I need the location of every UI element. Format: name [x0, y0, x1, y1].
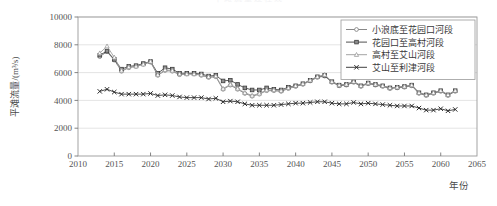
square-filled-marker — [221, 79, 225, 83]
square-filled-marker — [243, 86, 247, 90]
y-axis-ticks: 0200040006000800010000 — [50, 12, 79, 161]
circle-open-marker — [355, 28, 359, 32]
x-tick-label: 2030 — [214, 159, 233, 169]
triangle-open-marker — [236, 86, 240, 90]
y-tick-label: 10000 — [50, 12, 73, 22]
y-axis-title: 平滩流量/(m³/s) — [9, 56, 20, 116]
square-filled-marker — [355, 40, 359, 44]
x-tick-label: 2050 — [359, 159, 378, 169]
x-tick-label: 2010 — [69, 159, 88, 169]
y-tick-label: 6000 — [54, 68, 73, 78]
x-tick-label: 2060 — [432, 159, 451, 169]
square-filled-marker — [250, 88, 254, 92]
x-tick-label: 2020 — [142, 159, 161, 169]
x-tick-label: 2025 — [178, 159, 197, 169]
legend-label: 高村至艾山河段 — [372, 49, 435, 60]
line-chart: 0200040006000800010000 20102015202020252… — [0, 0, 497, 206]
chart-legend: 小浪底至花园口河段花园口至高村河段高村至艾山河段艾山至利津河段 — [341, 20, 475, 79]
y-tick-label: 4000 — [54, 96, 73, 106]
x-axis-title: 年份 — [449, 180, 469, 191]
y-tick-label: 8000 — [54, 40, 73, 50]
x-tick-label: 2055 — [395, 159, 414, 169]
chart-figure: 平滩流量过程线 0200040006000800010000 201020152… — [0, 0, 497, 206]
x-tick-label: 2015 — [105, 159, 124, 169]
triangle-open-marker — [250, 93, 254, 97]
triangle-open-marker — [243, 91, 247, 95]
x-axis-ticks: 2010201520202025203020352040204520502055… — [69, 153, 487, 170]
cross-marker — [98, 89, 102, 93]
y-tick-label: 2000 — [54, 123, 73, 133]
square-filled-marker — [105, 49, 109, 53]
legend-label: 小浪底至花园口河段 — [372, 24, 453, 35]
legend-label: 花园口至高村河段 — [372, 37, 444, 48]
x-tick-label: 2035 — [250, 159, 269, 169]
x-tick-label: 2040 — [287, 159, 306, 169]
x-tick-label: 2065 — [468, 159, 487, 169]
triangle-open-marker — [323, 72, 327, 76]
x-tick-label: 2045 — [323, 159, 342, 169]
legend-label: 艾山至利津河段 — [372, 62, 435, 73]
triangle-open-marker — [228, 82, 232, 86]
caption-remnant-text: 平滩流量过程线 — [0, 0, 497, 4]
caption-remnant-strip: 平滩流量过程线 — [0, 0, 497, 10]
